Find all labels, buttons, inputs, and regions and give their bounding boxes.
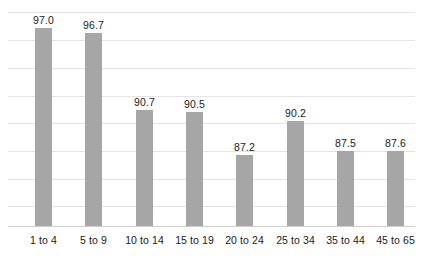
gridline [8,40,415,41]
bar[interactable] [35,28,52,226]
bar-value-label: 90.5 [176,98,213,110]
bar[interactable] [236,155,253,226]
bar-value-label: 87.6 [377,137,414,149]
category-label: 20 to 24 [219,234,270,246]
bar-value-label: 96.7 [75,19,112,31]
bar-value-label: 87.2 [226,141,263,153]
gridline [8,12,415,13]
gridline [8,123,415,124]
bar[interactable] [136,110,153,226]
bar-value-label: 90.7 [126,96,163,108]
category-label: 45 to 65 [370,234,421,246]
bar-value-label: 90.2 [277,107,314,119]
bar[interactable] [85,33,102,226]
category-label: 10 to 14 [119,234,170,246]
gridline [8,68,415,69]
bar[interactable] [287,121,304,226]
category-label: 1 to 4 [18,234,69,246]
category-label: 25 to 34 [270,234,321,246]
category-axis: 1 to 45 to 910 to 1415 to 1920 to 2425 t… [8,227,415,256]
bar-chart: 97.096.790.790.587.290.287.587.6 1 to 45… [0,0,423,256]
bar[interactable] [186,112,203,226]
category-label: 35 to 44 [320,234,371,246]
category-label: 5 to 9 [68,234,119,246]
bar-value-label: 87.5 [327,137,364,149]
bar[interactable] [337,151,354,226]
gridline [8,96,415,97]
bar[interactable] [387,151,404,226]
category-label: 15 to 19 [169,234,220,246]
bar-value-label: 97.0 [25,14,62,26]
plot-area: 97.096.790.790.587.290.287.587.6 [8,0,415,227]
